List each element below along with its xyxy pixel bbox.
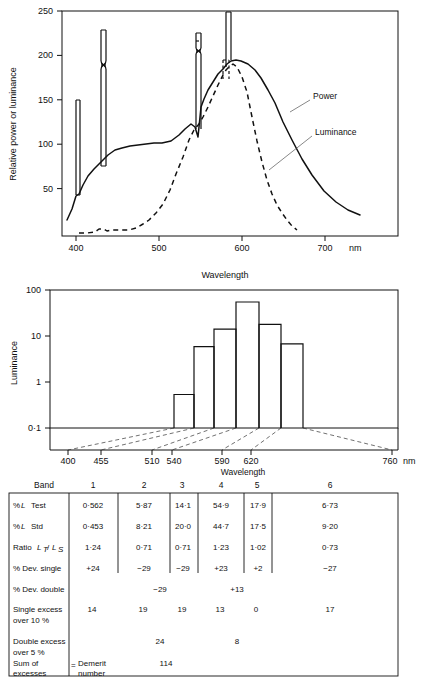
emission-line-405 (76, 100, 80, 195)
row6-label-line2: over 10 % (13, 616, 49, 625)
row8-label-line2: excesses (13, 669, 46, 678)
row6-col1: 14 (88, 605, 97, 614)
row8-demerit-line2: number (78, 669, 105, 678)
top-x-unit: nm (349, 243, 362, 253)
mid-xtick-400: 400 (60, 456, 75, 466)
row6-col3: 19 (178, 605, 187, 614)
mid-xtick-455: 455 (93, 456, 108, 466)
top-ytick-50: 50 (43, 184, 53, 194)
row8-demerit-line1: Demerit (78, 659, 107, 668)
mid-ytick-1: 1 (36, 377, 41, 387)
top-xtick-500: 500 (151, 243, 166, 253)
top-ytick-100: 100 (38, 139, 53, 149)
top-ytick-200: 200 (38, 50, 53, 60)
table-col-header-6: 6 (328, 480, 333, 490)
row4-col3: −29 (176, 564, 190, 573)
figure-root: 250 200 150 100 50 Relative power or lum… (0, 0, 421, 684)
row6-col5: 0 (254, 605, 259, 614)
row5-label: % Dev. double (13, 585, 65, 594)
mid-projection-box (50, 428, 398, 450)
row2-col6: 9·20 (322, 522, 339, 531)
row1-col6: 6·73 (322, 501, 339, 510)
band-projection-lines (68, 428, 392, 450)
row5-value-1: −29 (153, 585, 167, 594)
band-bar-2 (194, 347, 214, 428)
mid-ytick-100: 100 (26, 285, 41, 295)
row1-col3: 14·1 (175, 501, 192, 510)
luminance-annotation-label: Luminance (315, 127, 357, 137)
mid-ytick-0.1: 0·1 (28, 423, 41, 433)
mid-ytick-10: 10 (31, 331, 41, 341)
row8-demerit-value: 114 (160, 659, 173, 668)
row8-equals-sign: = (71, 661, 76, 670)
row4-col2: −29 (137, 564, 151, 573)
mid-xtick-760: 760 (382, 456, 397, 466)
luminance-curve (79, 64, 297, 233)
row2-col1: 0·453 (83, 522, 104, 531)
table-outer-border (9, 493, 398, 676)
row4-col6: −27 (323, 564, 337, 573)
row3-col5: 1·02 (250, 543, 267, 552)
row1-label-pct: % (13, 501, 20, 510)
band-bar-4 (236, 302, 259, 428)
top-y-axis-title: Relative power or luminance (8, 67, 18, 181)
row3-col6: 0·73 (322, 543, 339, 552)
row1-label-symbol: L (21, 501, 25, 510)
table-col-header-2: 2 (142, 480, 147, 490)
row7-label-line2: over 5 % (13, 648, 45, 657)
row1-col4: 54·9 (213, 501, 230, 510)
band-bar-1 (174, 395, 194, 429)
row5-value-2: +13 (230, 585, 244, 594)
row7-value-1: 24 (156, 637, 165, 646)
mid-x-axis-title-wrap: Wavelength (0, 266, 421, 282)
mid-plot-frame (50, 290, 398, 428)
table-row: Double excess over 5 % 24 8 (13, 637, 240, 657)
row2-col2: 8·21 (136, 522, 153, 531)
band-bar-5 (259, 324, 281, 428)
row3-label-num: L (37, 543, 41, 552)
row4-col4: +23 (214, 564, 228, 573)
table-row: Ratio L T / L S 1·24 0·71 0·71 1·23 1·02… (13, 543, 339, 554)
row6-col2: 19 (139, 605, 148, 614)
table-col-header-5: 5 (255, 480, 260, 490)
top-x-axis: 400 500 600 700 nm (68, 236, 361, 253)
row7-value-2: 8 (235, 637, 240, 646)
table-row: Single excess over 10 % 14 19 19 13 0 17 (13, 605, 335, 625)
row2-col4: 44·7 (213, 522, 230, 531)
row4-label: % Dev. single (13, 564, 62, 573)
band-bar-3 (214, 329, 236, 428)
power-annotation: Power (290, 91, 337, 112)
table-row: % L Test 0·562 5·87 14·1 54·9 17·9 6·73 (13, 501, 339, 510)
emission-line-436 (101, 30, 106, 166)
mid-xtick-590: 590 (214, 456, 229, 466)
row7-label-line1: Double excess (13, 637, 65, 646)
row2-col5: 17·5 (250, 522, 267, 531)
row8-label-line1: Sum of (13, 659, 39, 668)
row3-label-den: L (52, 543, 56, 552)
mid-x-unit: nm (403, 456, 416, 466)
top-xtick-600: 600 (234, 243, 249, 253)
row2-label-name: Std (31, 522, 43, 531)
table-col-header-4: 4 (219, 480, 224, 490)
row6-col6: 17 (326, 605, 335, 614)
mid-xtick-510: 510 (144, 456, 159, 466)
table-row: % Dev. double −29 +13 (13, 585, 244, 594)
row2-label-pct: % (13, 522, 20, 531)
row1-label-name: Test (31, 501, 46, 510)
band-bars (174, 302, 303, 428)
mid-x-axis-title: Wavelength (201, 270, 248, 280)
top-y-axis: 250 200 150 100 50 (38, 6, 62, 194)
row6-label-line1: Single excess (13, 605, 62, 614)
top-ytick-150: 150 (38, 95, 53, 105)
row4-col5: +2 (253, 564, 263, 573)
row3-col1: 1·24 (85, 543, 102, 552)
table-row: Sum of excesses = Demerit number 114 (13, 659, 173, 678)
table-col-header-1: 1 (91, 480, 96, 490)
table-wavelength-header: Wavelength (221, 467, 266, 477)
row3-col2: 0·71 (136, 543, 153, 552)
demerit-table-panel: Wavelength Band 1 2 3 4 5 6 % L Test 0·5… (0, 466, 421, 682)
row6-col4: 13 (216, 605, 225, 614)
top-xtick-700: 700 (317, 243, 332, 253)
row3-col4: 1·23 (213, 543, 230, 552)
top-xtick-400: 400 (68, 243, 83, 253)
